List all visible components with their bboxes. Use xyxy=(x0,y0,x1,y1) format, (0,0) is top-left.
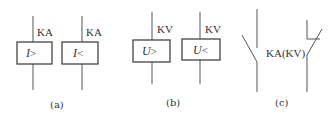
overcurrent-relay-coil: KA I> xyxy=(17,16,53,90)
relay-symbol: I> xyxy=(25,46,36,60)
undervoltage-relay-coil: KV U< xyxy=(182,12,221,84)
panel-c: KA(KV) (c) xyxy=(242,9,322,108)
relay-symbol: U> xyxy=(142,44,157,58)
caption-c: (c) xyxy=(275,97,289,108)
undercurrent-relay-coil: KA I< xyxy=(62,16,102,90)
relay-tag: KA xyxy=(37,26,53,38)
normally-open-contact xyxy=(242,9,257,92)
relay-tag: KV xyxy=(205,23,221,35)
relay-symbols-diagram: KA I> KA I< (a) KV U> KV U< (b) xyxy=(0,0,336,117)
caption-b: (b) xyxy=(166,97,180,108)
relay-tag: KA xyxy=(86,26,102,38)
normally-closed-contact xyxy=(307,20,322,92)
contact-label: KA(KV) xyxy=(266,47,305,60)
relay-symbol: U< xyxy=(193,43,208,57)
panel-a: KA I> KA I< (a) xyxy=(17,16,102,110)
relay-symbol: I< xyxy=(72,46,83,60)
caption-a: (a) xyxy=(50,99,64,110)
relay-tag: KV xyxy=(157,23,173,35)
panel-b: KV U> KV U< (b) xyxy=(133,12,221,108)
overvoltage-relay-coil: KV U> xyxy=(133,12,173,84)
